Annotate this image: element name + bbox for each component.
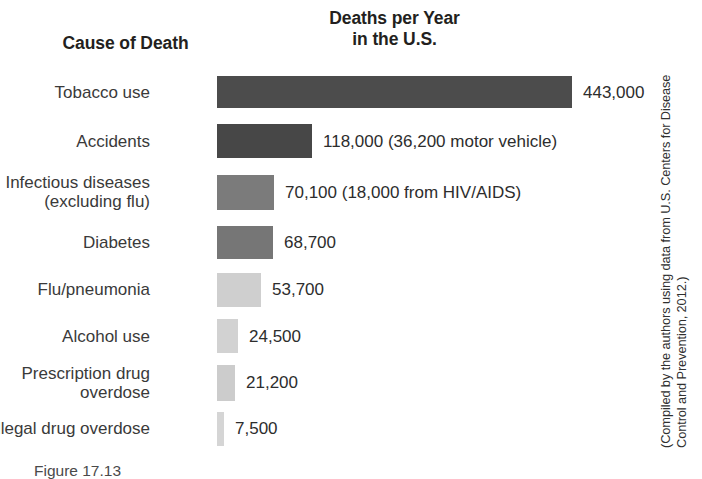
chart-row: Accidents118,000 (36,200 motor vehicle) [0, 116, 640, 166]
bar-and-value: 68,700 [217, 218, 336, 266]
category-label: Accidents [0, 132, 150, 151]
category-label: Illegal drug overdose [0, 419, 150, 438]
bar-and-value: 7,500 [217, 406, 278, 451]
deaths-header-line-1: Deaths per Year [217, 8, 572, 29]
value-label: 70,100 (18,000 from HIV/AIDS) [285, 184, 521, 201]
chart-row: Tobacco use443,000 [0, 68, 640, 116]
bar-and-value: 53,700 [217, 266, 324, 313]
source-attribution-line-1: (Compiled by the authors using data from… [658, 75, 673, 448]
value-label: 118,000 (36,200 motor vehicle) [323, 133, 557, 150]
bar [217, 124, 312, 158]
bar [217, 319, 238, 353]
chart-row: Flu/pneumonia53,700 [0, 266, 640, 313]
chart-row: Diabetes68,700 [0, 218, 640, 266]
category-label: Tobacco use [0, 83, 150, 102]
chart-row: Prescription drug overdose21,200 [0, 359, 640, 406]
category-label: Infectious diseases (excluding flu) [0, 173, 150, 211]
bar-and-value: 21,200 [217, 359, 298, 406]
bar-and-value: 118,000 (36,200 motor vehicle) [217, 116, 557, 166]
category-label: Diabetes [0, 233, 150, 252]
chart-rows: Tobacco use443,000Accidents118,000 (36,2… [0, 68, 640, 451]
figure-caption: Figure 17.13 [34, 462, 674, 479]
chart-row: Illegal drug overdose7,500 [0, 406, 640, 451]
value-label: 7,500 [235, 420, 278, 437]
bar [217, 273, 261, 307]
bar-and-value: 443,000 [217, 68, 644, 116]
bar [217, 365, 235, 401]
column-header-cause-of-death: Cause of Death [38, 33, 213, 54]
bar [217, 76, 572, 108]
category-label: Alcohol use [0, 327, 150, 346]
value-label: 53,700 [272, 281, 324, 298]
value-label: 443,000 [583, 84, 644, 101]
bar-chart-figure: Cause of Death Deaths per Year in the U.… [0, 0, 702, 479]
source-attribution-line-2: Control and Prevention, 2012.) [674, 277, 689, 448]
category-label: Flu/pneumonia [0, 280, 150, 299]
column-header-deaths-per-year: Deaths per Year in the U.S. [217, 8, 572, 49]
value-label: 68,700 [284, 234, 336, 251]
bar-and-value: 70,100 (18,000 from HIV/AIDS) [217, 166, 521, 218]
deaths-header-line-2: in the U.S. [217, 29, 572, 50]
value-label: 21,200 [246, 374, 298, 391]
source-attribution: (Compiled by the authors using data from… [658, 36, 700, 448]
chart-row: Alcohol use24,500 [0, 313, 640, 359]
bar [217, 412, 224, 446]
bar-and-value: 24,500 [217, 313, 301, 359]
bar [217, 175, 274, 210]
bar [217, 226, 273, 259]
chart-row: Infectious diseases (excluding flu)70,10… [0, 166, 640, 218]
category-label: Prescription drug overdose [0, 364, 150, 402]
value-label: 24,500 [249, 328, 301, 345]
